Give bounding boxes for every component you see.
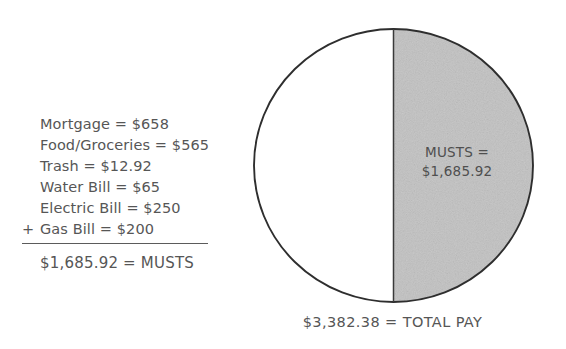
pie-slice-label-line-2: $1,685.92	[397, 162, 517, 181]
expense-list: Mortgage = $658 Food/Groceries = $565 Tr…	[18, 114, 218, 240]
budget-illustration: Mortgage = $658 Food/Groceries = $565 Tr…	[0, 0, 566, 349]
expense-text: Food/Groceries = $565	[40, 137, 209, 153]
expense-breakdown: Mortgage = $658 Food/Groceries = $565 Tr…	[18, 114, 218, 240]
sum-divider-rule	[22, 243, 208, 244]
expense-text: Trash = $12.92	[40, 158, 152, 174]
plus-sign: +	[22, 219, 34, 240]
pie-slice-remainder	[254, 29, 394, 302]
list-item: Food/Groceries = $565	[18, 135, 218, 156]
expense-total: $1,685.92 = MUSTS	[40, 252, 194, 274]
expense-text: Gas Bill = $200	[40, 221, 154, 237]
list-item: Mortgage = $658	[18, 114, 218, 135]
list-item: Water Bill = $65	[18, 177, 218, 198]
pie-slice-label: MUSTS = $1,685.92	[397, 143, 517, 181]
pie-caption-total-pay: $3,382.38 = TOTAL PAY	[251, 312, 534, 332]
list-item: Electric Bill = $250	[18, 198, 218, 219]
list-item: + Gas Bill = $200	[18, 219, 218, 240]
pie-slice-label-line-1: MUSTS =	[397, 143, 517, 162]
pie-chart: MUSTS = $1,685.92	[251, 27, 534, 304]
expense-text: Mortgage = $658	[40, 116, 169, 132]
expense-text: Water Bill = $65	[40, 179, 160, 195]
expense-text: Electric Bill = $250	[40, 200, 181, 216]
list-item: Trash = $12.92	[18, 156, 218, 177]
